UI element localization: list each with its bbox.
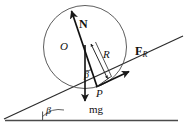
normal-force-label: N (79, 18, 88, 30)
center-point-label: O (60, 41, 68, 52)
weight-label: mg (89, 104, 103, 115)
friction-force-label: FR (135, 45, 148, 59)
friction-force-label-subscript: R (142, 50, 147, 59)
angle-label-outer: β (46, 106, 51, 116)
radius-label: R (103, 49, 110, 60)
angle-label-inner: β (84, 70, 89, 80)
contact-point-label: P (96, 88, 103, 99)
physics-diagram-figure: N O R FR P β β mg (0, 0, 185, 130)
